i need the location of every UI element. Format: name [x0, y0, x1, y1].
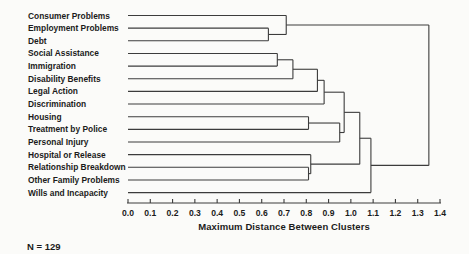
leaf-label: Wills and Incapacity — [28, 188, 108, 198]
leaf-label: Discrimination — [28, 99, 86, 109]
dendrogram-figure: Consumer ProblemsEmployment ProblemsDebt… — [0, 0, 469, 254]
x-tick-label: 0.2 — [167, 208, 179, 218]
x-tick-label: 0.1 — [144, 208, 156, 218]
dendrogram-plot: Consumer ProblemsEmployment ProblemsDebt… — [0, 0, 469, 254]
x-tick-label: 0.5 — [233, 208, 245, 218]
x-axis-title: Maximum Distance Between Clusters — [128, 221, 440, 232]
x-tick-label: 1.1 — [367, 208, 379, 218]
leaf-label: Treatment by Police — [28, 124, 107, 134]
leaf-label: Employment Problems — [28, 23, 119, 33]
x-tick-label: 1.3 — [412, 208, 424, 218]
x-tick-label: 0.0 — [122, 208, 134, 218]
x-tick-label: 0.7 — [278, 208, 290, 218]
x-tick-label: 1.2 — [389, 208, 401, 218]
leaf-label: Debt — [28, 36, 47, 46]
x-tick-label: 0.3 — [189, 208, 201, 218]
x-tick-label: 1.4 — [434, 208, 446, 218]
leaf-label: Social Assistance — [28, 48, 99, 58]
leaf-label: Disability Benefits — [28, 74, 101, 84]
x-tick-label: 0.6 — [256, 208, 268, 218]
leaf-label: Housing — [28, 112, 62, 122]
leaf-label: Personal Injury — [28, 137, 89, 147]
leaf-label: Immigration — [28, 61, 76, 71]
leaf-label: Other Family Problems — [28, 175, 120, 185]
leaf-label: Legal Action — [28, 86, 78, 96]
leaf-label: Hospital or Release — [28, 150, 106, 160]
sample-size-note: N = 129 — [27, 241, 61, 252]
leaf-label: Consumer Problems — [28, 11, 110, 21]
leaf-label: Relationship Breakdown — [28, 162, 126, 172]
x-tick-label: 1.0 — [345, 208, 357, 218]
x-tick-label: 0.4 — [211, 208, 223, 218]
x-tick-label: 0.8 — [300, 208, 312, 218]
x-tick-label: 0.9 — [323, 208, 335, 218]
